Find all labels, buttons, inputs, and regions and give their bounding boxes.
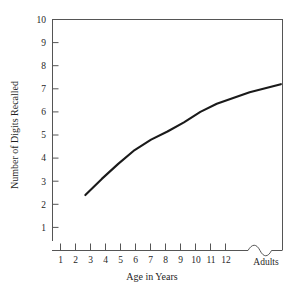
x-tick-label-8: 8 xyxy=(163,255,168,265)
x-tick-label-7: 7 xyxy=(148,255,153,265)
y-tick-label-8: 8 xyxy=(41,61,46,71)
x-axis-title: Age in Years xyxy=(126,271,177,282)
x-tick-label-2: 2 xyxy=(73,255,78,265)
x-tick-label-12: 12 xyxy=(221,255,231,265)
y-tick-label-2: 2 xyxy=(41,200,46,210)
y-tick-label-1: 1 xyxy=(41,223,46,233)
x-tick-label-10: 10 xyxy=(191,255,201,265)
chart-container: 10 9 8 7 6 5 4 3 2 1 Number of Digits Re… xyxy=(0,0,301,298)
y-tick-label-10: 10 xyxy=(37,15,47,25)
digit-span-line-chart: 10 9 8 7 6 5 4 3 2 1 Number of Digits Re… xyxy=(0,0,301,298)
y-axis-title: Number of Digits Recalled xyxy=(9,81,20,189)
x-tick-label-1: 1 xyxy=(58,255,63,265)
x-category-label-adults: Adults xyxy=(253,257,279,267)
y-tick-label-6: 6 xyxy=(41,107,46,117)
y-tick-label-7: 7 xyxy=(41,84,46,94)
x-tick-label-9: 9 xyxy=(178,255,183,265)
y-tick-label-5: 5 xyxy=(41,130,46,140)
y-tick-label-4: 4 xyxy=(41,153,46,163)
x-tick-label-5: 5 xyxy=(118,255,123,265)
x-tick-label-3: 3 xyxy=(88,255,93,265)
x-tick-label-11: 11 xyxy=(206,255,215,265)
y-tick-label-3: 3 xyxy=(41,177,46,187)
y-tick-label-9: 9 xyxy=(41,38,46,48)
x-tick-label-4: 4 xyxy=(103,255,108,265)
x-tick-label-6: 6 xyxy=(133,255,138,265)
